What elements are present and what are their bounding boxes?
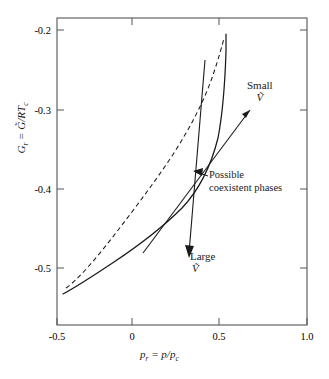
y-label-symbol: G [15, 146, 27, 154]
annotation-small-v-line1: Small [247, 79, 273, 91]
x-label-equals: = [148, 348, 161, 360]
figure-container: -0.5 0 0.5 1.0 -0.2 -0.3 -0.4 -0.5 pr = … [0, 0, 329, 379]
y-axis-ticks-right [300, 30, 307, 268]
ytick-label--0.4: -0.4 [34, 184, 51, 195]
annotation-coexistent-phases: Possible coexistent phases [209, 169, 282, 194]
xtick-label-1.0: 1.0 [300, 331, 313, 342]
x-label-sub2: c [175, 354, 178, 363]
annotation-coexistent-line1: Possible [209, 169, 282, 182]
y-label-equals: = [15, 130, 27, 143]
xtick-label-0: 0 [129, 331, 134, 342]
y-label-sub1: r [21, 143, 30, 146]
y-axis-ticks [57, 30, 64, 268]
y-label-sub2: c [21, 103, 30, 106]
annotation-small-v: Small Ṽ [247, 79, 273, 104]
small-v-arrowhead [242, 110, 250, 118]
annotation-large-v-symbol: Ṽ [192, 262, 215, 274]
annotation-large-v: Large Ṽ [190, 250, 215, 275]
large-v-arrow [185, 60, 205, 258]
x-axis-label: pr = p/pc [140, 348, 179, 363]
x-axis-ticks [57, 318, 307, 325]
y-axis-label-wrap: Gr = G̃/RTc [11, 83, 31, 173]
ytick-label--0.3: -0.3 [34, 105, 51, 116]
y-axis-label: Gr = G̃/RTc [15, 103, 27, 154]
annotation-large-v-line1: Large [190, 250, 215, 262]
xtick-label-0.5: 0.5 [212, 331, 225, 342]
annotation-small-v-symbol: Ṽ [247, 91, 273, 103]
x-axis-ticks-top [132, 18, 219, 25]
xtick-label--0.5: -0.5 [49, 331, 66, 342]
y-label-num: G̃ [15, 122, 27, 130]
annotation-coexistent-line2: coexistent phases [209, 182, 282, 195]
ytick-label--0.5: -0.5 [34, 263, 51, 274]
ytick-label--0.2: -0.2 [34, 25, 51, 36]
coexistent-arrowhead [193, 168, 203, 176]
y-label-den: /RT [15, 106, 27, 122]
